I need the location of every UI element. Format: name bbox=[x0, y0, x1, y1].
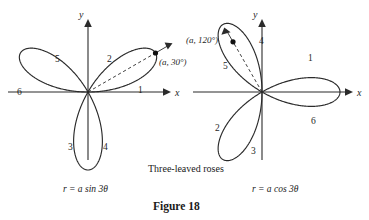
right-petal-label-6: 6 bbox=[311, 117, 316, 127]
right-petal-label-3: 3 bbox=[251, 147, 256, 157]
right-x-axis-label: x bbox=[357, 88, 361, 98]
left-marked-point-dot bbox=[153, 50, 158, 55]
right-equation: r = a cos 3θ bbox=[252, 184, 298, 194]
right-point-label: (a, 120°) bbox=[186, 36, 218, 45]
right-petal-label-5: 5 bbox=[223, 62, 228, 72]
left-petal-label-4: 4 bbox=[103, 143, 108, 153]
left-petal-label-3: 3 bbox=[68, 143, 73, 153]
right-y-axis-arrowhead bbox=[258, 19, 266, 27]
left-equation: r = a sin 3θ bbox=[63, 184, 108, 194]
right-petal-label-1: 1 bbox=[308, 54, 313, 64]
left-x-axis-label: x bbox=[175, 88, 179, 98]
left-petal-label-5: 5 bbox=[55, 55, 60, 65]
rose-curves-svg bbox=[0, 0, 369, 220]
left-ray-arrowhead bbox=[165, 43, 173, 50]
left-plot-group bbox=[8, 19, 173, 170]
figure-caption: Figure 18 bbox=[153, 200, 200, 212]
figure-subcaption: Three-leaved roses bbox=[148, 163, 224, 174]
left-y-axis-arrowhead bbox=[84, 19, 92, 27]
left-radius-dashed-ray bbox=[88, 53, 156, 92]
right-ray-arrowhead bbox=[221, 27, 230, 34]
figure-18-container: x y (a, 30°) 1 2 3 4 5 6 x y (a, 120°) 1… bbox=[0, 0, 369, 220]
left-petal-label-2: 2 bbox=[107, 55, 112, 65]
right-petal-label-4: 4 bbox=[259, 37, 264, 47]
left-x-axis-arrowhead bbox=[163, 88, 171, 96]
left-petal-label-1: 1 bbox=[138, 86, 143, 96]
right-x-axis-arrowhead bbox=[345, 88, 353, 96]
left-petal-label-6: 6 bbox=[17, 88, 22, 98]
right-y-axis-label: y bbox=[253, 10, 257, 20]
right-petal-label-2: 2 bbox=[215, 124, 220, 134]
left-point-label: (a, 30°) bbox=[159, 58, 187, 67]
right-radius-dashed-ray bbox=[233, 42, 262, 92]
left-y-axis-label: y bbox=[79, 10, 83, 20]
right-marked-point-dot bbox=[230, 39, 235, 44]
